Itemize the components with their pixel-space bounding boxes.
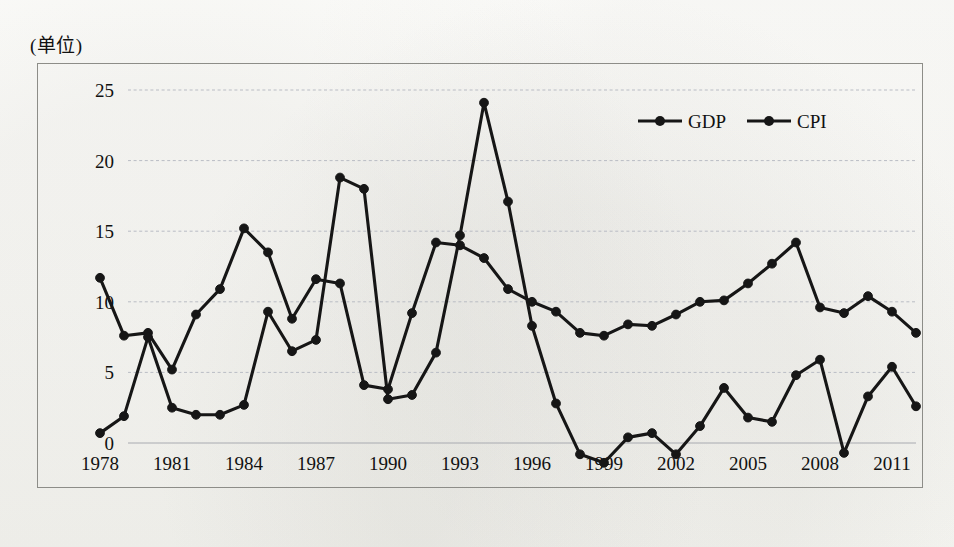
data-point xyxy=(864,392,873,401)
y-tick-25: 25 xyxy=(95,80,114,101)
data-point xyxy=(720,384,729,393)
data-point xyxy=(528,321,537,330)
data-point xyxy=(576,450,585,459)
x-tick-1981: 1981 xyxy=(153,453,191,474)
x-axis-tick-labels: 1978198119841987199019931996199920022005… xyxy=(81,453,911,474)
data-point xyxy=(408,391,417,400)
gridlines xyxy=(128,90,916,489)
data-point xyxy=(768,259,777,268)
y-tick-20: 20 xyxy=(95,151,114,172)
data-point xyxy=(672,450,681,459)
data-point xyxy=(288,314,297,323)
chart-legend[interactable]: GDPCPI xyxy=(638,111,827,132)
data-point xyxy=(192,410,201,419)
data-point xyxy=(216,410,225,419)
x-tick-1990: 1990 xyxy=(369,453,407,474)
data-point xyxy=(624,433,633,442)
data-point xyxy=(600,458,609,467)
legend-label-gdp: GDP xyxy=(688,111,726,132)
data-point xyxy=(648,429,657,438)
data-point xyxy=(336,173,345,182)
data-point xyxy=(384,395,393,404)
legend-marker-gdp xyxy=(655,116,665,126)
y-axis-tick-labels: -50510152025 xyxy=(95,80,114,489)
chart-frame: -50510152025 197819811984198719901993199… xyxy=(37,63,923,488)
data-point xyxy=(240,224,249,233)
x-tick-2011: 2011 xyxy=(873,453,910,474)
x-tick-1978: 1978 xyxy=(81,453,119,474)
data-point xyxy=(480,98,489,107)
data-point xyxy=(360,381,369,390)
data-point xyxy=(768,417,777,426)
y-tick-15: 15 xyxy=(95,221,114,242)
data-point xyxy=(864,292,873,301)
data-point xyxy=(432,348,441,357)
data-point xyxy=(168,365,177,374)
data-point xyxy=(240,400,249,409)
data-point xyxy=(264,248,273,257)
data-point xyxy=(648,321,657,330)
data-point xyxy=(792,371,801,380)
data-point xyxy=(912,328,921,337)
data-point xyxy=(744,279,753,288)
data-point xyxy=(168,403,177,412)
series-gdp xyxy=(96,224,921,394)
line-chart: -50510152025 197819811984198719901993199… xyxy=(38,64,924,489)
data-point xyxy=(192,310,201,319)
data-point xyxy=(672,310,681,319)
data-point xyxy=(360,184,369,193)
data-point xyxy=(888,362,897,371)
y-tick-5: 5 xyxy=(105,362,115,383)
x-tick-2005: 2005 xyxy=(729,453,767,474)
data-point xyxy=(600,331,609,340)
x-tick-2008: 2008 xyxy=(801,453,839,474)
data-point xyxy=(576,328,585,337)
data-point xyxy=(120,331,129,340)
data-point xyxy=(264,307,273,316)
data-point xyxy=(720,296,729,305)
data-point xyxy=(888,307,897,316)
data-point xyxy=(96,429,105,438)
x-tick-1996: 1996 xyxy=(513,453,551,474)
data-point xyxy=(456,231,465,240)
data-point xyxy=(792,238,801,247)
series-line-gdp xyxy=(100,228,916,389)
data-point xyxy=(96,273,105,282)
data-point xyxy=(336,279,345,288)
x-tick-1993: 1993 xyxy=(441,453,479,474)
data-point xyxy=(696,422,705,431)
data-point xyxy=(816,303,825,312)
data-point xyxy=(552,399,561,408)
data-point xyxy=(312,275,321,284)
data-point xyxy=(624,320,633,329)
data-point xyxy=(144,333,153,342)
data-point xyxy=(552,307,561,316)
legend-marker-cpi xyxy=(764,116,774,126)
x-tick-1987: 1987 xyxy=(297,453,335,474)
data-point xyxy=(912,402,921,411)
legend-item-cpi[interactable]: CPI xyxy=(747,111,827,132)
x-tick-1984: 1984 xyxy=(225,453,264,474)
data-point xyxy=(840,448,849,457)
data-point xyxy=(408,309,417,318)
y-tick-0: 0 xyxy=(105,433,115,454)
data-point xyxy=(216,285,225,294)
y-axis-unit-label: (单位) xyxy=(30,30,83,57)
data-point xyxy=(696,297,705,306)
data-point xyxy=(744,413,753,422)
legend-label-cpi: CPI xyxy=(797,111,827,132)
data-point xyxy=(432,238,441,247)
data-point xyxy=(816,355,825,364)
data-point xyxy=(840,309,849,318)
data-point xyxy=(288,347,297,356)
data-point xyxy=(480,254,489,263)
data-series xyxy=(96,98,921,467)
data-point xyxy=(504,197,513,206)
data-point xyxy=(312,336,321,345)
data-point xyxy=(120,412,129,421)
legend-item-gdp[interactable]: GDP xyxy=(638,111,726,132)
data-point xyxy=(504,285,513,294)
series-cpi xyxy=(96,98,921,467)
